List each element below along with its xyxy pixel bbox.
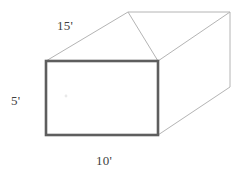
- dimension-label-depth: 15': [57, 19, 73, 33]
- dimension-label-width: 10': [96, 154, 112, 168]
- dimension-label-height: 5': [11, 94, 20, 108]
- bottom-right-receding-edge: [158, 87, 230, 135]
- box-diagram-figure: 15' 5' 10': [0, 0, 245, 178]
- top-right-receding-edge: [158, 12, 230, 61]
- top-face-interior-edge: [128, 12, 158, 61]
- front-face-rectangle: [46, 61, 158, 135]
- box-drawing: [0, 0, 245, 178]
- faint-dot-mark: [65, 95, 68, 98]
